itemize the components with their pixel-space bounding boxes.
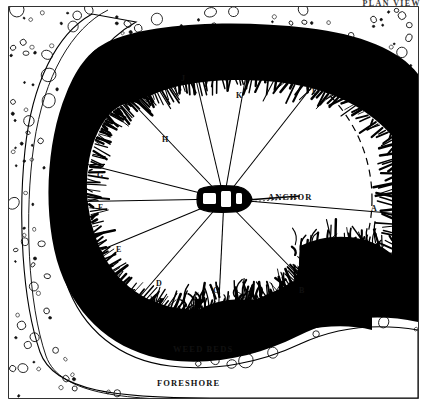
bearing-label-d: D [156,279,162,288]
plan-view-title: PLAN VIEW [363,0,421,8]
caption-anchor: ANCHOR [268,192,312,202]
bearing-label-a: A [371,204,377,213]
bearing-label-b: B [299,286,305,295]
boat-plan-symbol [197,186,252,213]
caption-weed-beds: WEED BEDS [173,344,233,354]
bearing-label-l: L [312,87,318,96]
caption-foreshore: FORESHORE [157,378,220,388]
bearing-label-e: E [116,245,122,254]
bearing-label-k: K [236,91,243,100]
bearing-label-j: J [181,74,185,83]
bearing-label-h: H [162,135,169,144]
bearing-label-g: G [97,171,104,180]
chart-body [5,0,419,400]
plan-view-diagram: PLAN VIEW ANCHORWEED BEDSFORESHORE ABCDE… [0,0,427,405]
bearing-label-c: C [213,286,219,295]
bearing-label-f: F [98,203,103,212]
